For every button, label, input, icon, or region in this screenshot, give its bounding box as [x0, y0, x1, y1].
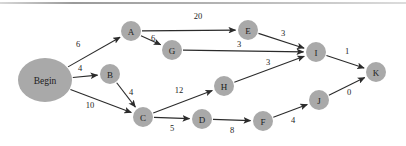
- edge-weight-a-g: 6: [151, 33, 155, 43]
- node-i[interactable]: I: [306, 42, 326, 62]
- edge-weight-begin-c: 10: [86, 100, 95, 110]
- graph-canvas: BeginABCDEFGHIJK 641020641258333410: [0, 0, 406, 146]
- edge-c-to-d: [154, 117, 190, 118]
- node-label-h: H: [221, 82, 228, 92]
- edge-d-to-f: [213, 119, 251, 120]
- edge-weight-begin-a: 6: [76, 39, 80, 49]
- node-label-e: E: [245, 26, 251, 36]
- nodes-layer: BeginABCDEFGHIJK: [18, 20, 386, 131]
- edge-weight-e-i: 3: [281, 28, 285, 38]
- node-label-b: B: [107, 70, 113, 80]
- node-g[interactable]: G: [162, 40, 182, 60]
- node-label-f: F: [260, 117, 265, 127]
- edge-weight-g-i: 3: [237, 39, 241, 49]
- node-j[interactable]: J: [309, 90, 329, 110]
- node-b[interactable]: B: [100, 64, 120, 84]
- edge-weight-a-e: 20: [194, 11, 203, 21]
- node-d[interactable]: D: [192, 109, 212, 129]
- node-label-begin: Begin: [34, 76, 57, 86]
- edge-begin-to-c: [70, 90, 131, 113]
- node-label-j: J: [317, 96, 321, 106]
- node-f[interactable]: F: [253, 111, 273, 131]
- edge-begin-to-b: [73, 75, 98, 77]
- node-label-a: A: [128, 27, 135, 37]
- edge-weight-i-k: 1: [345, 46, 349, 56]
- node-label-i: I: [315, 48, 318, 58]
- edge-a-to-e: [142, 30, 236, 31]
- edge-weight-h-i: 3: [266, 57, 270, 67]
- edge-weight-c-h: 12: [175, 85, 184, 95]
- node-h[interactable]: H: [214, 76, 234, 96]
- node-label-c: C: [140, 113, 146, 123]
- node-c[interactable]: C: [133, 107, 153, 127]
- edge-weight-j-k: 0: [347, 87, 351, 97]
- node-label-d: D: [199, 115, 206, 125]
- node-a[interactable]: A: [121, 21, 141, 41]
- node-begin[interactable]: Begin: [18, 58, 72, 102]
- node-e[interactable]: E: [238, 20, 258, 40]
- edge-weight-begin-b: 4: [78, 63, 83, 73]
- edge-g-to-i: [183, 50, 304, 52]
- edge-weight-d-f: 8: [230, 125, 234, 135]
- node-label-g: G: [169, 46, 176, 56]
- node-k[interactable]: K: [366, 62, 386, 82]
- edge-weight-c-d: 5: [170, 123, 174, 133]
- node-label-k: K: [373, 68, 380, 78]
- edge-weight-f-j: 4: [291, 115, 296, 125]
- edge-weight-b-c: 4: [129, 87, 134, 97]
- network-diagram-figure: BeginABCDEFGHIJK 641020641258333410: [0, 0, 406, 146]
- edge-i-to-k: [326, 55, 364, 68]
